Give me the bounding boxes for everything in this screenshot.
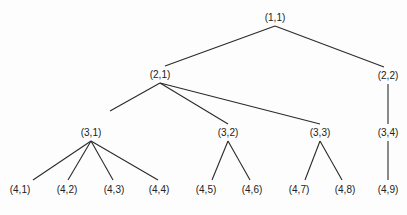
- edge-3-3-to-4-7: [305, 141, 320, 180]
- node-4-2: (4,2): [57, 185, 78, 195]
- edge-1-1-to-2-1: [165, 26, 275, 66]
- node-4-7: (4,7): [289, 185, 310, 195]
- node-2-2: (2,2): [378, 71, 399, 81]
- node-3-2: (3,2): [218, 128, 239, 138]
- node-4-6: (4,6): [242, 185, 263, 195]
- edge-1-1-to-2-2: [275, 26, 384, 67]
- node-3-4: (3,4): [378, 128, 399, 138]
- edge-2-1-to-3-1: [110, 83, 160, 111]
- node-4-4: (4,4): [149, 185, 170, 195]
- tree-diagram: (1,1)(2,1)(2,2)(3,1)(3,2)(3,3)(3,4)(4,1)…: [0, 0, 407, 215]
- node-2-1: (2,1): [150, 70, 171, 80]
- edge-2-1-to-3-3: [160, 83, 320, 124]
- edge-3-2-to-4-6: [228, 141, 250, 180]
- node-4-1: (4,1): [10, 185, 31, 195]
- node-4-8: (4,8): [335, 185, 356, 195]
- tree-edges: [0, 0, 407, 215]
- edge-3-2-to-4-5: [212, 141, 228, 180]
- node-4-3: (4,3): [104, 185, 125, 195]
- node-1-1: (1,1): [265, 13, 286, 23]
- edge-3-1-to-4-2: [68, 141, 91, 180]
- node-4-9: (4,9): [378, 185, 399, 195]
- node-3-1: (3,1): [81, 128, 102, 138]
- node-3-3: (3,3): [310, 128, 331, 138]
- edge-3-1-to-4-1: [33, 141, 91, 180]
- edge-3-3-to-4-8: [320, 141, 342, 180]
- edge-3-1-to-4-4: [91, 141, 158, 180]
- edge-2-1-to-3-2: [160, 83, 228, 124]
- node-4-5: (4,5): [196, 185, 217, 195]
